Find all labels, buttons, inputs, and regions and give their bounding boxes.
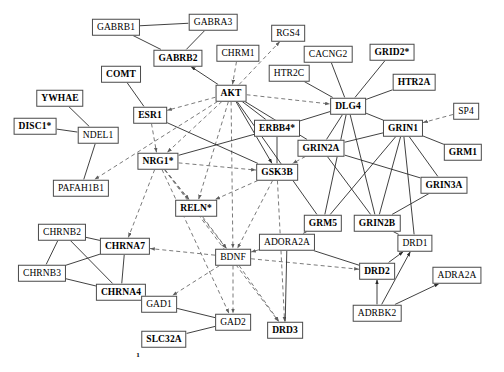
edge-akt-nrg1 — [167, 102, 222, 153]
node-adra2a[interactable]: ADRA2A — [432, 267, 481, 284]
edge-slc32a-gad2 — [187, 326, 216, 333]
edge-gsk3b-reln — [215, 181, 258, 200]
node-gad2[interactable]: GAD2 — [215, 314, 251, 331]
edge-adora2a-bdnf — [251, 250, 259, 252]
node-esr1[interactable]: ESR1 — [133, 107, 167, 124]
edge-gabra3-gabrb2 — [186, 31, 204, 50]
node-gsk3b[interactable]: GSK3B — [256, 164, 298, 181]
edge-chrnb3-chrna7 — [66, 254, 100, 265]
edge-chrm1-akt — [232, 62, 236, 85]
node-slc32a[interactable]: SLC32A — [141, 331, 186, 348]
node-gad1[interactable]: GAD1 — [141, 296, 177, 313]
node-htr2a[interactable]: HTR2A — [393, 74, 436, 91]
node-akt[interactable]: AKT — [216, 85, 247, 102]
node-drd2[interactable]: DRD2 — [359, 263, 395, 280]
node-drd1[interactable]: DRD1 — [397, 235, 432, 252]
network-diagram-canvas: GABRB1GABRA3RGS4GABRB2CHRM1CACNG2GRID2*C… — [0, 0, 504, 372]
edge-grin1-grin2b — [379, 137, 400, 215]
node-reln[interactable]: RELN* — [175, 200, 217, 217]
node-grin2a[interactable]: GRIN2A — [297, 140, 344, 157]
node-gabra3[interactable]: GABRA3 — [189, 14, 238, 31]
node-bdnf[interactable]: BDNF — [215, 249, 251, 266]
node-comt[interactable]: COMT — [101, 66, 141, 83]
node-grin1[interactable]: GRIN1 — [383, 120, 423, 137]
edge-grin2a-grin3a — [345, 155, 421, 178]
edge-ndel1-pafah1b1 — [84, 144, 96, 180]
node-dlg4[interactable]: DLG4 — [330, 98, 366, 115]
node-chrna7[interactable]: CHRNA7 — [100, 238, 150, 255]
edge-htr2c-dlg4 — [304, 82, 333, 98]
edge-akt-bdnf — [231, 102, 233, 249]
node-erbb4[interactable]: ERBB4* — [254, 120, 300, 137]
edge-erbb4-dlg4 — [300, 112, 330, 121]
edge-bdnf-chrna7 — [150, 249, 215, 256]
edge-grin1-drd1 — [404, 137, 414, 235]
edge-adora2a-drd3 — [285, 251, 287, 322]
edge-grid2-dlg4 — [355, 61, 385, 98]
node-grm1[interactable]: GRM1 — [444, 144, 482, 161]
node-pafah1b1[interactable]: PAFAH1B1 — [53, 180, 109, 197]
node-sp4[interactable]: SP4 — [453, 103, 479, 120]
node-ndel1[interactable]: NDEL1 — [78, 127, 119, 144]
edge-dlg4-grin2a — [326, 115, 342, 140]
node-grid2[interactable]: GRID2* — [370, 44, 415, 61]
edge-esr1-nrg1 — [151, 124, 156, 153]
edge-grin1-grin3a — [409, 137, 438, 177]
edge-drd2-drd1 — [389, 252, 404, 263]
node-chrnb2[interactable]: CHRNB2 — [38, 224, 86, 241]
edge-chrnb2-chrna7 — [86, 237, 100, 240]
edge-disc1-ndel1 — [57, 129, 78, 132]
edge-grin1-grm1 — [423, 136, 444, 144]
edge-gabrb1-gabrb2 — [133, 36, 161, 50]
edge-chrnb2-chrnb3 — [46, 241, 58, 265]
edge-dlg4-grin2b — [350, 115, 375, 215]
node-adrbk2[interactable]: ADRBK2 — [353, 305, 402, 322]
edge-nrg1-gad2 — [162, 170, 229, 314]
edge-esr1-gsk3b — [167, 123, 258, 164]
edge-adrbk2-adra2a — [395, 284, 439, 305]
node-gabrb1[interactable]: GABRB1 — [92, 19, 140, 36]
node-chrm1[interactable]: CHRM1 — [216, 45, 259, 62]
edge-gsk3b-drd3 — [277, 181, 284, 322]
node-disc1[interactable]: DISC1* — [14, 118, 57, 135]
node-nrg1[interactable]: NRG1* — [137, 153, 178, 170]
edge-akt-gabrb2 — [191, 67, 218, 85]
edge-chrna7-chrna4 — [122, 255, 125, 284]
node-grin2b[interactable]: GRIN2B — [354, 215, 401, 232]
node-ywhae[interactable]: YWHAE — [36, 90, 83, 107]
node-grm5[interactable]: GRM5 — [304, 215, 342, 232]
edge-ywhae-ndel1 — [69, 107, 90, 127]
node-chrnb3[interactable]: CHRNB3 — [18, 265, 66, 282]
edge-cacng2-dlg4 — [331, 63, 344, 98]
edge-gad1-gad2 — [177, 308, 215, 317]
node-rgs4[interactable]: RGS4 — [271, 25, 305, 42]
edge-grin1-grin2a — [345, 133, 384, 142]
edge-htr2a-dlg4 — [366, 90, 393, 100]
node-htr2c[interactable]: HTR2C — [269, 65, 310, 82]
edge-sp4-grin1 — [423, 115, 453, 123]
edge-dlg4-grin1 — [366, 113, 383, 120]
node-adora2a[interactable]: ADORA2A — [259, 234, 315, 251]
node-chrna4[interactable]: CHRNA4 — [96, 284, 146, 301]
edge-nrg1-erbb4 — [179, 134, 255, 155]
edge-akt-reln — [199, 102, 229, 200]
edge-chrnb3-chrna4 — [66, 279, 96, 286]
edge-nrg1-chrna7 — [128, 170, 154, 238]
edge-nrg1-gsk3b — [179, 163, 257, 170]
edge-akt-esr1 — [167, 97, 216, 110]
node-cacng2[interactable]: CACNG2 — [304, 46, 353, 63]
figure-annotation: 1 — [136, 351, 140, 359]
edge-gabrb1-gabra3 — [140, 23, 189, 26]
node-drd3[interactable]: DRD3 — [267, 322, 303, 339]
edge-adora2a-drd2 — [313, 251, 359, 266]
node-grin3a[interactable]: GRIN3A — [420, 177, 467, 194]
edge-grin2a-grin2b — [327, 157, 370, 215]
edge-akt-erbb4 — [242, 102, 266, 120]
node-gabrb2[interactable]: GABRB2 — [153, 50, 202, 67]
edge-comt-esr1 — [127, 83, 144, 107]
edge-akt-dlg4 — [247, 95, 331, 104]
edge-grin2a-gsk3b — [293, 157, 306, 164]
edge-bdnf-gad1 — [172, 266, 219, 296]
